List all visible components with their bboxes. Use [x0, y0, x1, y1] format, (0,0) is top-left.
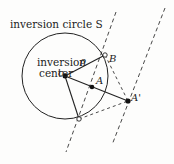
point-a — [90, 85, 95, 90]
diagram-canvas: inversion circle S inversion center c ρ … — [0, 0, 174, 164]
inversion-diagram: inversion circle S inversion center c ρ … — [0, 0, 174, 164]
point-a-prime — [125, 98, 130, 103]
label-a: A — [95, 75, 103, 86]
circle-label: inversion circle S — [10, 18, 103, 30]
radius-symbol: ρ — [79, 55, 86, 66]
center-label-2: center — [39, 67, 74, 79]
label-a-prime: A' — [130, 92, 141, 103]
center-symbol: c — [58, 67, 64, 78]
point-b — [103, 53, 107, 57]
dashed-line-right — [112, 8, 165, 145]
dashed-lower-to-aprime — [79, 101, 128, 119]
center-to-lower-line — [65, 76, 79, 119]
dashed-line-left — [66, 12, 116, 152]
label-b: B — [108, 53, 116, 64]
point-tangent-lower — [77, 117, 81, 121]
